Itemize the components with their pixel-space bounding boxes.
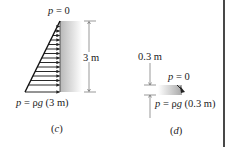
dimension-0-3m [144,63,156,118]
hydrostatic-pressure-diagram: 3 m p = 0 p = ρg (3 m) (c) 0.3 m p = 0 p… [0,0,228,147]
dimension-label-0-3m: 0.3 m [138,51,162,62]
dimension-label-3m: 3 m [83,52,99,63]
caption-d: (d) [170,125,183,137]
top-pressure-label-d: p = 0 [167,71,190,82]
panel-c: 3 m p = 0 p = ρg (3 m) (c) [15,5,99,135]
pressure-distribution-edge [25,21,60,92]
wall-shading [60,21,82,92]
panel-d: 0.3 m p = 0 p = ρg (0.3 m) (d) [138,51,216,137]
bottom-pressure-label-d: p = ρg (0.3 m) [154,98,216,110]
bottom-pressure-label: p = ρg (3 m) [15,97,69,109]
caption-c: (c) [51,123,63,135]
top-pressure-label: p = 0 [47,5,70,16]
